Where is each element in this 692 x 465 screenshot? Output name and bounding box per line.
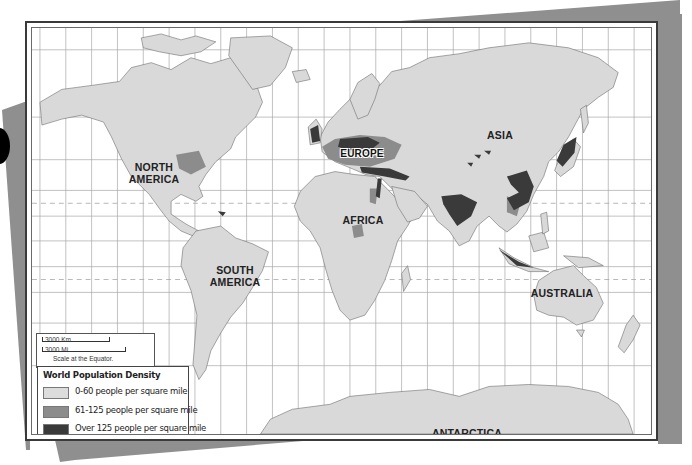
- legend-swatch-low: [43, 387, 69, 399]
- label-south-america: SOUTH AMERICA: [200, 264, 270, 288]
- philippines: [541, 212, 549, 234]
- map-area: NORTH AMERICA SOUTH AMERICA EUROPE ASIA …: [31, 27, 652, 435]
- new-zealand: [618, 315, 640, 353]
- label-australia: AUSTRALIA: [522, 287, 602, 299]
- scale-note: Scale at the Equator.: [53, 355, 113, 362]
- scale-km-label: 3000 Km: [45, 336, 71, 343]
- scale-mi-label: 3000 Mi.: [45, 346, 70, 353]
- legend-swatch-high: [43, 424, 69, 435]
- label-asia: ASIA: [480, 129, 520, 141]
- tasmania: [576, 330, 584, 337]
- sumatra-java: [499, 248, 549, 272]
- page-shadow-right: [658, 14, 682, 444]
- legend-label-medium: 61-125 people per square mile: [75, 405, 197, 415]
- legend-swatch-medium: [43, 406, 69, 418]
- map-frame: NORTH AMERICA SOUTH AMERICA EUROPE ASIA …: [25, 21, 658, 441]
- south-america: [181, 226, 268, 379]
- new-guinea: [564, 256, 604, 268]
- label-north-america: NORTH AMERICA: [114, 161, 194, 185]
- label-south-america-line2: AMERICA: [200, 276, 270, 288]
- madagascar: [402, 266, 411, 292]
- label-africa: AFRICA: [338, 214, 388, 226]
- label-south-america-line1: SOUTH: [200, 264, 270, 276]
- page-shadow-bottom: [55, 440, 315, 465]
- scale-box: 3000 Km 3000 Mi. Scale at the Equator.: [36, 333, 155, 368]
- label-europe: EUROPE: [332, 148, 392, 160]
- sakhalin: [580, 105, 588, 133]
- legend-title: World Population Density: [43, 370, 160, 380]
- north-america: [40, 58, 263, 236]
- label-north-america-line1: NORTH: [114, 161, 194, 173]
- borneo: [529, 232, 549, 252]
- iceland: [292, 70, 310, 83]
- legend: World Population Density 0-60 people per…: [37, 366, 189, 435]
- legend-label-high: Over 125 people per square mile: [75, 423, 206, 433]
- arctic-islands: [141, 34, 216, 56]
- legend-label-low: 0-60 people per square mile: [75, 386, 187, 396]
- label-north-america-line2: AMERICA: [114, 173, 194, 185]
- label-antarctica: ANTARCTICA: [427, 427, 507, 435]
